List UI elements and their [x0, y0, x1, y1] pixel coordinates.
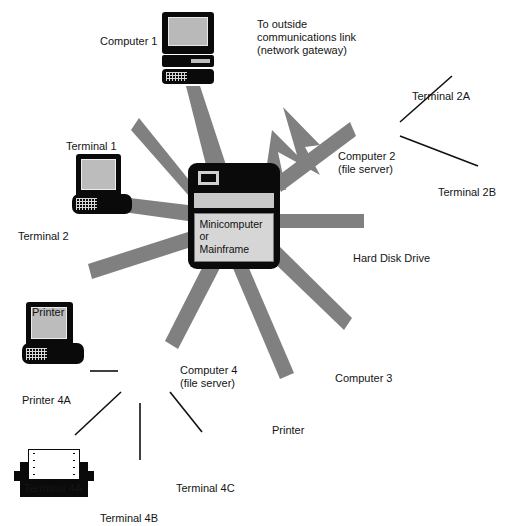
monitor-icon — [76, 154, 122, 197]
link-hub-printer-left — [88, 232, 188, 279]
label-terminal-4c: Terminal 4C — [176, 482, 235, 495]
hub-drive-bar — [194, 193, 275, 208]
printer-right-ear-icon — [88, 471, 94, 481]
hub-indicator-light — [198, 171, 219, 185]
link-hub-hard-disk — [279, 214, 364, 228]
label-printer-hub: Printer — [32, 306, 64, 319]
node-terminal-1[interactable] — [72, 154, 132, 214]
gateway-caption: To outside communications link (network … — [257, 18, 356, 57]
link-hub-printer-lower-right — [232, 266, 294, 379]
label-printer-4a: Printer 4A — [22, 394, 71, 407]
label-printer-lower-right: Printer — [272, 424, 304, 437]
hub-label-panel: Minicomputer or Mainframe — [194, 213, 275, 262]
link-hub-computer-4 — [165, 266, 221, 349]
paper-holes-right-icon — [73, 453, 75, 475]
label-computer-2: Computer 2 (file server) — [338, 150, 395, 176]
label-terminal-4a: Terminal 4A — [24, 482, 82, 495]
label-terminal-4b: Terminal 4B — [100, 512, 158, 525]
node-computer-1[interactable] — [162, 12, 214, 84]
mainframe-hub[interactable]: Minicomputer or Mainframe — [188, 163, 280, 269]
key-grid-icon — [166, 72, 187, 81]
label-computer-3: Computer 3 — [335, 372, 392, 385]
screen-icon — [81, 159, 116, 190]
keyboard-icon — [162, 69, 214, 84]
label-terminal-2: Terminal 2 — [18, 230, 69, 243]
printer-paper-icon — [28, 449, 81, 480]
link-hub-terminal-1 — [131, 118, 189, 196]
label-computer-1: Computer 1 — [100, 35, 157, 48]
key-grid-icon — [26, 348, 47, 360]
link-computer4-terminal4c — [170, 392, 202, 432]
monitor-icon — [162, 12, 214, 54]
link-hub-computer-1 — [186, 86, 226, 165]
floppy-slot-icon — [191, 59, 210, 63]
key-grid-icon — [76, 198, 96, 210]
screen-icon — [168, 17, 209, 46]
system-unit-icon — [162, 55, 214, 67]
label-hard-disk: Hard Disk Drive — [353, 252, 430, 265]
label-terminal-2b: Terminal 2B — [438, 186, 496, 199]
label-computer-4: Computer 4 (file server) — [180, 364, 237, 390]
network-diagram: Minicomputer or Mainframe To outside com… — [0, 0, 525, 526]
link-computer4-terminal4a — [75, 392, 121, 435]
label-terminal-2a: Terminal 2A — [412, 90, 470, 103]
label-terminal-1: Terminal 1 — [66, 140, 117, 153]
paper-holes-left-icon — [33, 453, 35, 475]
link-computer2-terminal2b — [400, 136, 478, 166]
